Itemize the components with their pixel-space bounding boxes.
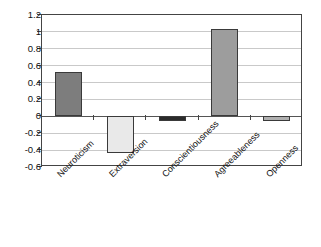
bar-chart: 1.210.80.60.40.20-0.2-0.4-0.6 Neuroticis… [0,0,321,247]
bar-openness [263,116,290,120]
gridline [42,48,301,49]
y-axis-line [41,14,42,167]
plot-area [41,14,302,166]
x-tick-mark [93,115,94,120]
y-tick-label: 0.8 [7,43,41,52]
y-tick-label: 0.2 [7,94,41,103]
y-tick-label: 1 [7,26,41,35]
gridline [42,65,301,66]
y-tick-label: -0.6 [7,162,41,171]
bar-conscientiousness [159,116,186,121]
gridline [42,133,301,134]
y-tick-label: -0.4 [7,145,41,154]
y-tick-label: 1.2 [7,10,41,19]
bar-agreeableness [211,29,238,116]
y-tick-label: 0 [7,111,41,120]
bar-neuroticism [55,72,82,117]
y-tick-label: 0.4 [7,77,41,86]
gridline [42,31,301,32]
y-tick-label: -0.2 [7,128,41,137]
x-tick-mark [250,115,251,120]
x-tick-mark [145,115,146,120]
x-tick-mark [198,115,199,120]
y-tick-label: 0.6 [7,60,41,69]
bar-extraversion [107,116,134,152]
